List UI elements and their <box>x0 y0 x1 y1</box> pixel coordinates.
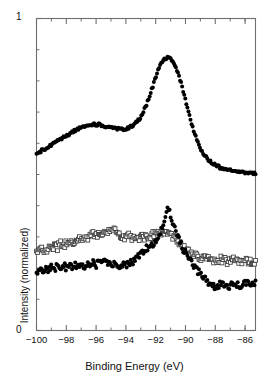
x-tick-label: −96 <box>82 334 110 345</box>
y-axis-max-label: 1 <box>16 11 22 22</box>
data-series <box>35 55 258 291</box>
x-tick-label: −98 <box>52 334 80 345</box>
series-top-spectrum <box>35 55 258 177</box>
x-tick-label: −90 <box>171 334 199 345</box>
xps-spectrum-figure: 1 0 −100−98−96−94−92−90−88−86 Intensity … <box>0 0 269 383</box>
x-tick-label: −92 <box>142 334 170 345</box>
x-axis-title: Binding Energy (eV) <box>0 360 269 372</box>
x-tick-label: −88 <box>201 334 229 345</box>
plot-canvas <box>0 0 269 383</box>
x-tick-label: −86 <box>231 334 259 345</box>
y-axis-title-wrap: Intensity (normalized) <box>2 100 16 280</box>
x-tick-label: −94 <box>112 334 140 345</box>
y-axis-title: Intensity (normalized) <box>19 206 30 346</box>
series-bottom-spectrum <box>35 206 258 292</box>
